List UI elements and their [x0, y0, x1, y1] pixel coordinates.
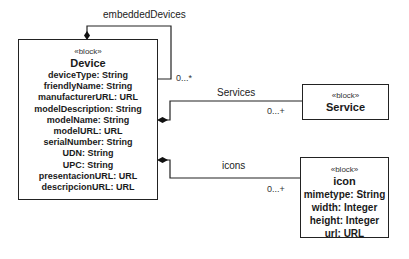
device-attribute: modelURL: URL: [19, 126, 157, 137]
icon-attribute: width: Integer: [301, 201, 388, 214]
icon-name: icon: [301, 175, 388, 188]
device-attribute: modelDescription: String: [19, 104, 157, 115]
icons-multiplicity: 0...+: [267, 184, 285, 194]
icon-stereotype: «block»: [301, 165, 388, 175]
device-name: Device: [19, 57, 157, 70]
icon-attribute: url: URL: [301, 227, 388, 240]
embedded-devices-multiplicity: 0...*: [176, 73, 192, 83]
icon-attribute: mimetype: String: [301, 188, 388, 201]
device-block: «block» Device deviceType: String friend…: [18, 39, 158, 200]
icon-block: «block» icon mimetype: String width: Int…: [300, 157, 389, 238]
device-attribute: modelName: String: [19, 115, 157, 126]
device-attribute: friendlyName: String: [19, 81, 157, 92]
icon-attribute: height: Integer: [301, 214, 388, 227]
device-stereotype: «block»: [19, 47, 157, 57]
device-attribute: UDN: String: [19, 148, 157, 159]
device-attribute: manufacturerURL: URL: [19, 92, 157, 103]
service-stereotype: «block»: [303, 91, 388, 101]
services-label: Services: [217, 87, 255, 98]
device-attribute: serialNumber: String: [19, 137, 157, 148]
service-name: Service: [303, 101, 388, 114]
composition-diamond-icon: [157, 157, 168, 163]
embedded-devices-label: embeddedDevices: [103, 9, 186, 20]
composition-diamond-icon: [157, 117, 168, 123]
services-multiplicity: 0...+: [267, 106, 285, 116]
service-block: «block» Service: [302, 84, 389, 120]
icons-label: icons: [222, 160, 245, 171]
device-attribute: UPC: String: [19, 160, 157, 171]
device-attribute: descripcionURL: URL: [19, 182, 157, 193]
device-attribute: deviceType: String: [19, 70, 157, 81]
device-attribute: presentacionURL: URL: [19, 171, 157, 182]
